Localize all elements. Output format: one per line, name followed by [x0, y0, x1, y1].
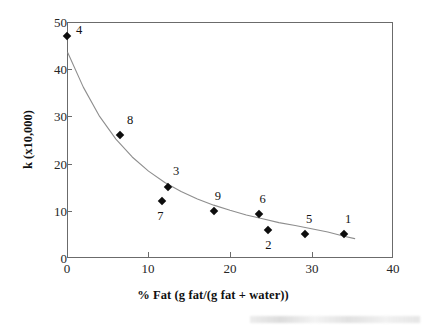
y-tick-mark [67, 164, 72, 165]
data-point-label: 5 [306, 213, 312, 226]
x-tick-mark [148, 252, 149, 258]
y-tick-mark [67, 116, 72, 117]
data-point-label: 1 [345, 213, 351, 226]
x-tick-label: 40 [373, 262, 413, 275]
y-tick-mark [67, 211, 72, 212]
data-point-label: 8 [127, 114, 133, 127]
plot-frame [67, 22, 393, 258]
x-tick-mark [312, 252, 313, 258]
y-tick-label: 40 [41, 63, 67, 76]
data-point-label: 3 [173, 165, 179, 178]
data-point-label: 4 [76, 24, 82, 37]
y-tick-label: 10 [41, 205, 67, 218]
scan-artifact [250, 316, 420, 323]
y-tick-label: 50 [41, 16, 67, 29]
y-tick-label: 30 [41, 110, 67, 123]
data-point-label: 9 [215, 190, 221, 203]
data-point-label: 7 [157, 210, 163, 223]
x-tick-label: 20 [210, 262, 250, 275]
y-axis-title: k (x10,000) [21, 60, 36, 220]
x-tick-label: 0 [47, 262, 87, 275]
x-tick-label: 30 [292, 262, 332, 275]
x-axis-title: % Fat (g fat/(g fat + water)) [0, 288, 426, 303]
x-tick-mark [230, 252, 231, 258]
data-point-label: 2 [265, 239, 271, 252]
x-tick-mark [67, 252, 68, 258]
x-axis-ticks: 0 10 20 30 40 [0, 262, 426, 282]
y-tick-label: 20 [41, 158, 67, 171]
x-tick-label: 10 [128, 262, 168, 275]
data-point-label: 6 [260, 193, 266, 206]
figure-canvas: 50 40 30 20 10 0 0 10 20 30 40 % Fat (g … [0, 0, 426, 328]
y-tick-mark [67, 69, 72, 70]
